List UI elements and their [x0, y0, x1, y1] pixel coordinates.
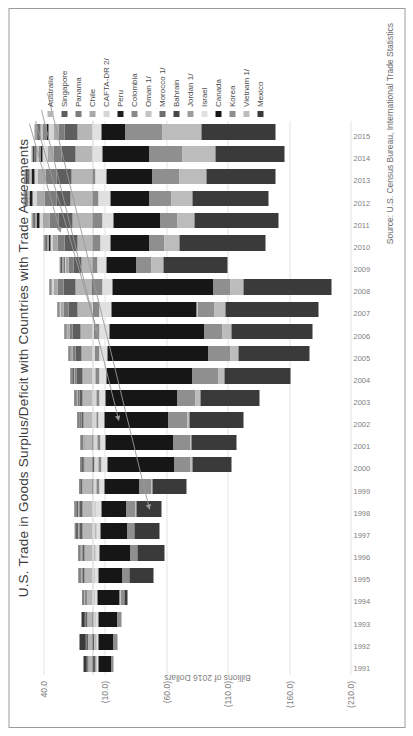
bar-segment[interactable]: [57, 302, 58, 318]
bar-segment[interactable]: [76, 368, 82, 384]
bar-segment[interactable]: [97, 590, 119, 606]
bar-segment[interactable]: [75, 147, 92, 163]
bar-segment[interactable]: [99, 324, 108, 340]
bar-segment[interactable]: [34, 169, 38, 185]
bar-column[interactable]: 2001: [43, 435, 350, 451]
bar-segment[interactable]: [87, 612, 93, 628]
bar-segment[interactable]: [136, 257, 151, 273]
bar-segment[interactable]: [81, 257, 92, 273]
bar-segment[interactable]: [81, 346, 92, 362]
bar-segment[interactable]: [80, 324, 92, 340]
bar-segment[interactable]: [189, 412, 243, 428]
bar-segment[interactable]: [130, 545, 137, 561]
bar-segment[interactable]: [49, 213, 58, 229]
bar-segment[interactable]: [182, 147, 215, 163]
bar-column[interactable]: 1995: [43, 568, 350, 584]
bar-column[interactable]: 2010: [43, 235, 350, 251]
bar-segment[interactable]: [56, 169, 71, 185]
bar-segment[interactable]: [24, 169, 26, 185]
bar-column[interactable]: 2013: [43, 169, 350, 185]
bar-segment[interactable]: [96, 523, 101, 539]
bar-column[interactable]: 1992: [43, 634, 350, 650]
bar-segment[interactable]: [32, 191, 36, 207]
bar-segment[interactable]: [104, 479, 138, 495]
bar-column[interactable]: 2002: [43, 412, 350, 428]
bar-segment[interactable]: [57, 279, 63, 295]
bar-segment[interactable]: [112, 279, 213, 295]
legend-item[interactable]: Mexico: [253, 17, 266, 117]
bar-segment[interactable]: [94, 590, 97, 606]
bar-column[interactable]: 2005: [43, 346, 350, 362]
bar-segment[interactable]: [191, 435, 235, 451]
bar-segment[interactable]: [82, 590, 83, 606]
bar-segment[interactable]: [34, 124, 36, 140]
bar-segment[interactable]: [230, 346, 237, 362]
bar-segment[interactable]: [92, 257, 97, 273]
bar-segment[interactable]: [105, 435, 173, 451]
legend-item[interactable]: Vietnam 1/: [239, 17, 252, 117]
bar-segment[interactable]: [139, 479, 151, 495]
bar-segment[interactable]: [64, 324, 65, 340]
bar-segment[interactable]: [163, 257, 227, 273]
bar-segment[interactable]: [110, 191, 149, 207]
bar-column[interactable]: 2009: [43, 257, 350, 273]
bar-segment[interactable]: [197, 302, 214, 318]
bar-segment[interactable]: [64, 235, 77, 251]
bar-segment[interactable]: [152, 479, 186, 495]
bar-segment[interactable]: [74, 390, 75, 406]
legend-item[interactable]: Bahrain: [169, 17, 182, 117]
bar-segment[interactable]: [79, 390, 83, 406]
bar-segment[interactable]: [104, 412, 168, 428]
bar-segment[interactable]: [84, 435, 92, 451]
bar-segment[interactable]: [95, 346, 99, 362]
bar-segment[interactable]: [95, 324, 100, 340]
bar-segment[interactable]: [95, 545, 99, 561]
bar-segment[interactable]: [94, 568, 98, 584]
bar-segment[interactable]: [92, 235, 100, 251]
bar-segment[interactable]: [84, 568, 92, 584]
bar-segment[interactable]: [106, 257, 137, 273]
bar-segment[interactable]: [113, 634, 117, 650]
bar-column[interactable]: 2003: [43, 390, 350, 406]
bar-segment[interactable]: [68, 257, 73, 273]
bar-segment[interactable]: [93, 302, 99, 318]
bar-segment[interactable]: [43, 235, 44, 251]
bar-segment[interactable]: [200, 390, 259, 406]
bar-column[interactable]: 2007: [43, 302, 350, 318]
bar-segment[interactable]: [106, 368, 192, 384]
bar-segment[interactable]: [101, 501, 126, 517]
bar-segment[interactable]: [192, 368, 218, 384]
bar-segment[interactable]: [162, 124, 201, 140]
bar-segment[interactable]: [82, 523, 92, 539]
bar-segment[interactable]: [53, 124, 58, 140]
bar-segment[interactable]: [99, 302, 110, 318]
bar-column[interactable]: 2012: [43, 191, 350, 207]
bar-segment[interactable]: [97, 257, 106, 273]
bar-segment[interactable]: [107, 457, 175, 473]
bar-segment[interactable]: [83, 656, 86, 672]
bar-segment[interactable]: [93, 435, 97, 451]
bar-segment[interactable]: [44, 191, 56, 207]
bar-segment[interactable]: [173, 435, 190, 451]
bar-segment[interactable]: [42, 147, 46, 163]
bar-segment[interactable]: [92, 191, 98, 207]
bar-segment[interactable]: [129, 568, 154, 584]
bar-segment[interactable]: [49, 279, 50, 295]
bar-segment[interactable]: [106, 169, 153, 185]
bar-segment[interactable]: [98, 568, 123, 584]
bar-segment[interactable]: [37, 169, 45, 185]
bar-segment[interactable]: [113, 213, 160, 229]
bar-segment[interactable]: [73, 257, 81, 273]
bar-segment[interactable]: [126, 501, 136, 517]
bar-column[interactable]: 2011: [43, 213, 350, 229]
bar-column[interactable]: 1993: [43, 612, 350, 628]
bar-segment[interactable]: [192, 191, 268, 207]
bar-segment[interactable]: [99, 346, 107, 362]
bar-segment[interactable]: [87, 634, 92, 650]
legend-item[interactable]: Australia: [43, 17, 56, 117]
bar-segment[interactable]: [81, 612, 83, 628]
bar-segment[interactable]: [57, 235, 64, 251]
bar-segment[interactable]: [201, 124, 275, 140]
bar-segment[interactable]: [102, 279, 112, 295]
bar-segment[interactable]: [53, 279, 57, 295]
